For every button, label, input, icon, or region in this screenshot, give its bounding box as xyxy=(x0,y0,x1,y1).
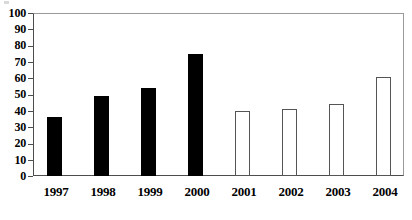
x-tick-label-2000: 2000 xyxy=(173,184,221,199)
y-tick-label-30: 30 xyxy=(0,122,26,132)
y-tick-label-100: 100 xyxy=(0,8,26,18)
bars-layer xyxy=(33,13,404,176)
bar-1998 xyxy=(94,96,109,176)
x-tick-label-2002: 2002 xyxy=(267,184,315,199)
x-tick-label-1997: 1997 xyxy=(32,184,80,199)
x-tick-label-2003: 2003 xyxy=(314,184,362,199)
bar-2001 xyxy=(235,111,250,176)
bar-2002 xyxy=(282,109,297,176)
x-axis-tick-labels: 1997 1998 1999 2000 2001 2002 2003 2004 xyxy=(33,184,404,208)
y-tick-label-80: 80 xyxy=(0,40,26,50)
bar-1999 xyxy=(141,88,156,176)
bar-1997 xyxy=(47,117,62,176)
y-tick-label-40: 40 xyxy=(0,106,26,116)
bar-2004 xyxy=(376,77,391,176)
x-tick-label-2004: 2004 xyxy=(361,184,409,199)
y-tick-label-50: 50 xyxy=(0,89,26,99)
x-tick-label-1999: 1999 xyxy=(126,184,174,199)
y-tick-label-70: 70 xyxy=(0,57,26,67)
y-tick-label-20: 20 xyxy=(0,138,26,148)
y-axis-tick-labels: 100 90 80 70 60 50 40 30 20 10 0 xyxy=(0,0,26,220)
y-tick-label-60: 60 xyxy=(0,73,26,83)
x-tick-label-1998: 1998 xyxy=(79,184,127,199)
y-tick-label-10: 10 xyxy=(0,155,26,165)
bar-2003 xyxy=(329,104,344,176)
y-tick-label-90: 90 xyxy=(0,24,26,34)
y-tick-label-0: 0 xyxy=(0,171,26,181)
x-tick-label-2001: 2001 xyxy=(220,184,268,199)
bar-chart: 100 90 80 70 60 50 40 30 20 10 0 xyxy=(0,0,412,220)
bar-2000 xyxy=(188,54,203,176)
y-tick-mark-0 xyxy=(28,176,33,177)
